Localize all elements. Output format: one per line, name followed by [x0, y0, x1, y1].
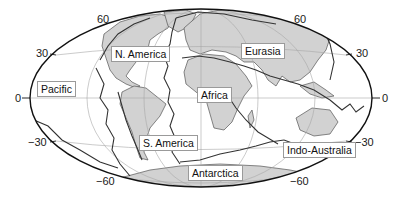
east-pacific-rise: [96, 68, 130, 176]
lat-label-0-right: 0: [382, 93, 388, 104]
plate-label-north-america: N. America: [111, 46, 170, 62]
lat-label-30-left: 30: [36, 48, 48, 59]
plate-label-antarctica: Antarctica: [188, 165, 243, 181]
lat-label-30-right: 30: [356, 48, 368, 59]
australia-land: [296, 108, 338, 136]
plate-label-south-america: S. America: [139, 135, 198, 151]
lat-label-m60-right: −60: [290, 176, 309, 187]
lat-label-m30-left: −30: [28, 137, 47, 148]
plate-label-africa: Africa: [197, 87, 232, 103]
lat-label-0-left: 0: [15, 93, 21, 104]
indo-pacific-boundary: [330, 100, 364, 112]
lat-label-60-right: 60: [294, 14, 306, 25]
lat-label-60-left: 60: [97, 14, 109, 25]
se-asia-islands: [300, 82, 334, 98]
plate-label-eurasia: Eurasia: [241, 43, 285, 59]
lat-label-m30-right: −30: [355, 137, 374, 148]
plate-label-pacific: Pacific: [37, 81, 76, 97]
plate-label-indo-australia: Indo-Australia: [283, 142, 356, 158]
lat-label-m60-left: −60: [96, 176, 115, 187]
